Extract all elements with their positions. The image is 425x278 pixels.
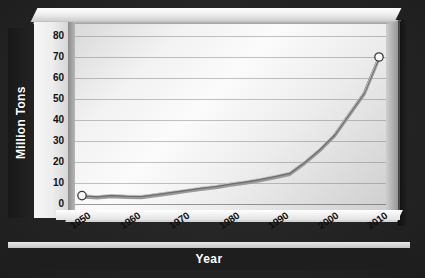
marker-start	[78, 191, 86, 199]
y-axis-tick-20: 20	[36, 157, 64, 167]
y-axis-tick-70: 70	[36, 52, 64, 62]
chart-canvas: Million Tons 80706050403020100 195019601…	[0, 0, 425, 278]
x-axis-title: Year	[196, 252, 223, 266]
series-line	[82, 57, 379, 196]
marker-end	[375, 53, 383, 61]
chart-3d-frame: Million Tons 80706050403020100 195019601…	[8, 6, 410, 258]
x-axis-title-bar: Year	[8, 248, 410, 270]
y-axis-tick-50: 50	[36, 94, 64, 104]
data-series-line	[75, 24, 386, 210]
y-axis-tick-60: 60	[36, 73, 64, 83]
plot-area	[75, 24, 386, 210]
y-axis-wall	[68, 22, 75, 212]
y-axis-tick-30: 30	[36, 136, 64, 146]
y-axis-title: Million Tons	[8, 28, 34, 218]
series-line-highlight	[82, 56, 379, 195]
y-axis-tick-strip: 80706050403020100	[34, 22, 68, 218]
series-line-shadow	[82, 58, 379, 197]
y-axis-tick-0: 0	[36, 199, 64, 209]
y-axis-tick-40: 40	[36, 115, 64, 125]
y-axis-tick-10: 10	[36, 178, 64, 188]
frame-right-shadow	[398, 20, 408, 226]
y-axis-tick-80: 80	[36, 31, 64, 41]
